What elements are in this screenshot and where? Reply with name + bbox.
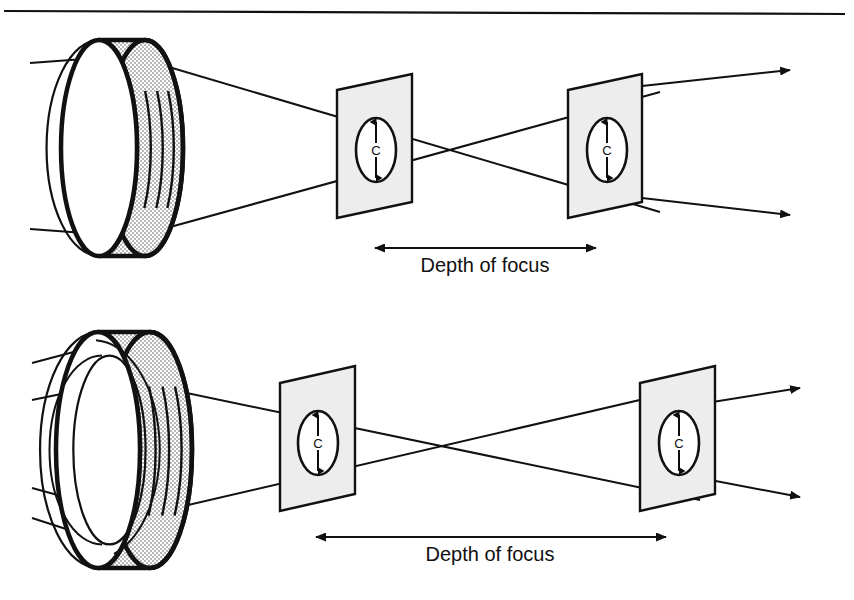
focus-planes: CC [280,366,715,511]
focus-plane-near: C [337,74,412,218]
lens-large-aperture [40,332,192,568]
horizontal-rule [4,11,845,14]
depth-of-focus-figure: CC Depth of focus CC Depth of focus [0,0,854,600]
coc-label: C [602,143,611,158]
coc-label: C [371,143,380,158]
figure-canvas: CC Depth of focus CC Depth of focus [0,0,854,600]
exit-ray [642,70,790,86]
exit-ray [642,198,790,215]
coc-label: C [674,436,683,451]
focus-planes: CC [337,74,642,218]
lens-small-aperture [47,40,183,256]
focus-plane-near: C [280,366,355,511]
top-diagram-small-aperture: CC Depth of focus [30,40,790,276]
focus-plane-far: C [640,366,715,511]
bottom-diagram-large-aperture: CC Depth of focus [32,332,800,568]
focus-plane-far: C [568,74,642,218]
depth-of-focus-label: Depth of focus [426,543,555,565]
depth-of-focus-dimension: Depth of focus [375,248,596,276]
depth-of-focus-label: Depth of focus [421,254,550,276]
coc-label: C [313,436,322,451]
depth-of-focus-dimension: Depth of focus [316,537,666,565]
